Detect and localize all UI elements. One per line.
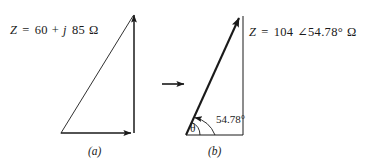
panel-a-real-part: 60 — [35, 23, 48, 37]
impedance-phasor-figure: Z=60+j85Ω (a) Z=104∠54.78°Ω 54.78° θ (b) — [0, 0, 366, 168]
panel-a-z-symbol: Z — [10, 23, 17, 37]
panel-b-angle-value: 54.78° — [308, 25, 343, 39]
panel-b-angle-annotation: 54.78° — [216, 113, 245, 125]
panel-a-caption: (a) — [88, 145, 101, 157]
panel-b-theta-symbol: θ — [190, 122, 196, 134]
panel-a-imaginary-part: 85 — [72, 23, 85, 37]
panel-a-equals: = — [22, 23, 29, 37]
panel-a-operator: + — [52, 23, 59, 37]
panel-b-equals: = — [261, 25, 268, 39]
panel-b-z-symbol: Z — [249, 25, 256, 39]
panel-a-impedance-label: Z=60+j85Ω — [10, 23, 99, 38]
panel-b-unit-ohm: Ω — [347, 25, 357, 39]
panel-b-caption: (b) — [208, 145, 221, 157]
angle-sign-icon: ∠ — [297, 25, 308, 39]
panel-b-impedance-label: Z=104∠54.78°Ω — [249, 24, 357, 40]
panel-a-imaginary-unit: j — [63, 23, 68, 37]
panel-a-unit-ohm: Ω — [89, 23, 99, 37]
panel-b-magnitude: 104 — [274, 25, 294, 39]
